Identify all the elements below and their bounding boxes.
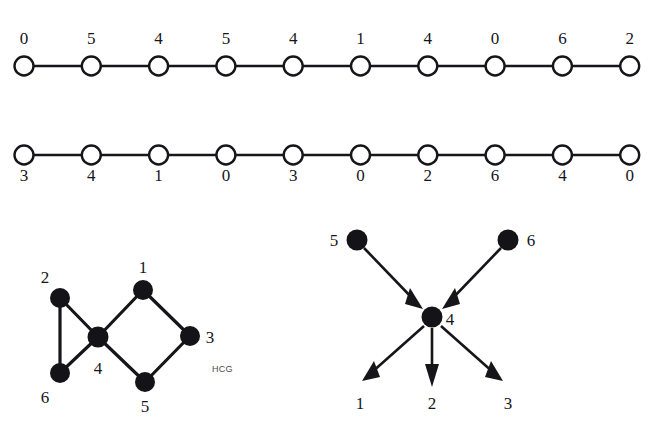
chain-node-label: 2 xyxy=(424,166,433,185)
graph-node-1[interactable] xyxy=(133,280,153,300)
chain-node[interactable] xyxy=(553,57,572,76)
chain-node[interactable] xyxy=(284,146,303,165)
chain-node-label: 0 xyxy=(625,166,634,185)
graph-node-2[interactable] xyxy=(50,288,70,308)
chain-node-label: 4 xyxy=(424,29,433,48)
chain-node-label: 1 xyxy=(154,166,163,185)
chain-node[interactable] xyxy=(351,146,370,165)
directed-node-label-6: 6 xyxy=(527,231,536,250)
hcg-watermark: HCG xyxy=(212,364,233,374)
chain-node-label: 2 xyxy=(625,29,634,48)
directed-node-label-5: 5 xyxy=(330,231,339,250)
chain-node-label: 3 xyxy=(289,166,298,185)
hcg-figure: 0 5 4 5 4 1 4 0 6 2 xyxy=(0,0,660,439)
graph-node-label-3: 3 xyxy=(206,328,215,347)
directed-target-label-3: 3 xyxy=(504,394,513,413)
graph-node-label-4: 4 xyxy=(94,359,103,378)
graph-node-label-6: 6 xyxy=(41,388,50,407)
chain-node-label: 6 xyxy=(491,166,500,185)
graph-node-4[interactable] xyxy=(88,327,109,348)
chain-node[interactable] xyxy=(486,146,505,165)
directed-node-6[interactable] xyxy=(498,230,519,251)
chain-node[interactable] xyxy=(418,146,437,165)
directed-target-label-1: 1 xyxy=(356,394,365,413)
chain-node[interactable] xyxy=(620,57,639,76)
chain-node[interactable] xyxy=(15,57,34,76)
directed-node-label-4: 4 xyxy=(446,310,455,329)
chain-node[interactable] xyxy=(553,146,572,165)
chain-node[interactable] xyxy=(216,57,235,76)
chain-node-label: 4 xyxy=(289,29,298,48)
chain-node-label: 1 xyxy=(356,29,365,48)
graph-node-3[interactable] xyxy=(180,326,200,346)
chain-node[interactable] xyxy=(82,146,101,165)
chain-node[interactable] xyxy=(486,57,505,76)
graph-node-label-5: 5 xyxy=(141,397,150,416)
chain-node[interactable] xyxy=(620,146,639,165)
chain-node-label: 6 xyxy=(558,29,567,48)
graph-node-label-1: 1 xyxy=(139,258,148,277)
chain-node[interactable] xyxy=(15,146,34,165)
chain-node-label: 4 xyxy=(87,166,96,185)
chain-node-label: 0 xyxy=(356,166,365,185)
graph-node-label-2: 2 xyxy=(41,268,50,287)
directed-node-5[interactable] xyxy=(347,230,368,251)
chain-node-label: 0 xyxy=(20,29,29,48)
chain-node[interactable] xyxy=(351,57,370,76)
chain-node-label: 0 xyxy=(491,29,500,48)
chain-node-label: 4 xyxy=(558,166,567,185)
chain-node-label: 3 xyxy=(20,166,29,185)
graph-node-5[interactable] xyxy=(135,372,155,392)
chain-node[interactable] xyxy=(418,57,437,76)
chain-node[interactable] xyxy=(149,57,168,76)
chain-node[interactable] xyxy=(216,146,235,165)
chain-node[interactable] xyxy=(284,57,303,76)
graph-node-6[interactable] xyxy=(50,363,70,383)
chain-node-label: 4 xyxy=(154,29,163,48)
chain-node[interactable] xyxy=(149,146,168,165)
chain-node-label: 0 xyxy=(222,166,231,185)
chain-node[interactable] xyxy=(82,57,101,76)
directed-target-label-2: 2 xyxy=(428,394,437,413)
directed-node-4[interactable] xyxy=(422,307,443,328)
chain-node-label: 5 xyxy=(222,29,231,48)
chain-node-label: 5 xyxy=(87,29,96,48)
